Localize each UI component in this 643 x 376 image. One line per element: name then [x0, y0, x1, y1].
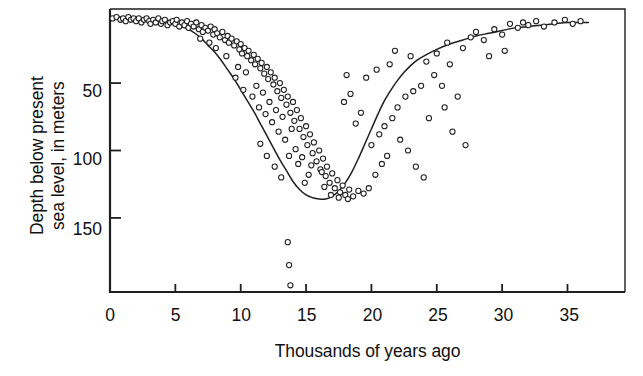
- data-point: [277, 81, 282, 86]
- data-point: [562, 17, 567, 22]
- data-point: [439, 83, 444, 88]
- data-point: [328, 192, 333, 197]
- data-point: [515, 25, 520, 30]
- data-point: [174, 17, 179, 22]
- data-point: [268, 70, 273, 75]
- data-point: [288, 110, 293, 115]
- data-point: [276, 129, 281, 134]
- data-point: [275, 89, 280, 94]
- axis-ticks: [110, 83, 567, 292]
- data-point: [421, 175, 426, 180]
- data-point: [252, 62, 257, 67]
- data-point: [570, 21, 575, 26]
- data-point: [347, 187, 352, 192]
- data-point: [217, 35, 222, 40]
- scatter-points: [110, 14, 583, 287]
- data-point: [288, 283, 293, 288]
- data-point: [302, 180, 307, 185]
- data-point: [492, 27, 497, 32]
- data-point: [578, 19, 583, 24]
- data-point: [447, 62, 452, 67]
- data-point: [314, 159, 319, 164]
- data-point: [374, 67, 379, 72]
- data-point: [395, 105, 400, 110]
- data-point: [526, 23, 531, 28]
- data-point: [279, 175, 284, 180]
- data-point: [373, 172, 378, 177]
- data-point: [289, 126, 294, 131]
- data-point: [377, 132, 382, 137]
- data-point: [341, 99, 346, 104]
- data-point: [262, 71, 267, 76]
- axis-frame: [110, 9, 625, 292]
- data-point: [229, 36, 234, 41]
- data-point: [387, 62, 392, 67]
- data-point: [286, 153, 291, 158]
- data-point: [432, 72, 437, 77]
- data-point: [194, 20, 199, 25]
- data-point: [256, 105, 261, 110]
- data-point: [369, 143, 374, 148]
- data-point: [306, 172, 311, 177]
- data-point: [269, 120, 274, 125]
- data-point: [260, 90, 265, 95]
- data-point: [317, 148, 322, 153]
- data-point: [434, 51, 439, 56]
- axis-frame-top-right: [110, 9, 625, 292]
- data-point: [272, 164, 277, 169]
- data-point: [413, 164, 418, 169]
- axis-spines: [110, 9, 625, 292]
- data-point: [298, 116, 303, 121]
- data-point: [296, 161, 301, 166]
- data-point: [264, 153, 269, 158]
- data-point: [460, 45, 465, 50]
- data-point: [220, 29, 225, 34]
- data-point: [224, 54, 229, 59]
- data-point: [445, 40, 450, 45]
- data-point: [319, 169, 324, 174]
- data-point: [300, 155, 305, 160]
- data-point: [320, 156, 325, 161]
- data-point: [254, 83, 259, 88]
- data-point: [286, 262, 291, 267]
- data-point: [486, 54, 491, 59]
- sea-level-chart: Depth below present sea level, in meters…: [0, 0, 643, 376]
- data-point: [344, 72, 349, 77]
- data-point: [403, 94, 408, 99]
- data-point: [366, 186, 371, 191]
- fitted-curve: [110, 17, 588, 199]
- data-point: [534, 19, 539, 24]
- data-point: [307, 132, 312, 137]
- data-point: [379, 161, 384, 166]
- data-point: [348, 91, 353, 96]
- data-point: [198, 36, 203, 41]
- data-point: [502, 48, 507, 53]
- data-point: [385, 153, 390, 158]
- data-point: [500, 32, 505, 37]
- data-point: [273, 107, 278, 112]
- data-point: [450, 129, 455, 134]
- data-point: [266, 76, 271, 81]
- data-point: [258, 66, 263, 71]
- data-point: [259, 60, 264, 65]
- data-point: [424, 59, 429, 64]
- data-point: [272, 75, 277, 80]
- data-point: [353, 121, 358, 126]
- data-point: [309, 163, 314, 168]
- data-point: [233, 75, 238, 80]
- data-point: [335, 178, 340, 183]
- data-point: [264, 64, 269, 69]
- data-point: [236, 64, 241, 69]
- data-point: [285, 94, 290, 99]
- data-point: [250, 94, 255, 99]
- data-point: [271, 82, 276, 87]
- data-point: [279, 95, 284, 100]
- data-point: [408, 54, 413, 59]
- data-point: [311, 140, 316, 145]
- data-point: [468, 35, 473, 40]
- data-point: [303, 124, 308, 129]
- data-point: [398, 137, 403, 142]
- data-point: [507, 21, 512, 26]
- data-point: [418, 83, 423, 88]
- data-point: [390, 116, 395, 121]
